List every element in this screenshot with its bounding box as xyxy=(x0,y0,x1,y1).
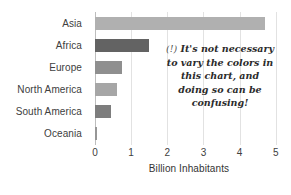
bar-asia xyxy=(95,17,265,30)
x-tick-label-1: 1 xyxy=(128,147,134,158)
category-label-africa: Africa xyxy=(0,34,88,56)
category-label-asia: Asia xyxy=(0,12,88,34)
x-tick-label-5: 5 xyxy=(273,147,279,158)
category-label-oceania: Oceania xyxy=(0,123,88,145)
annotation-line-1: It's not necessary xyxy=(181,43,275,54)
x-tick-label-0: 0 xyxy=(92,147,98,158)
bar-chart: Asia Africa Europe North America South A… xyxy=(0,0,291,195)
x-tick-label-2: 2 xyxy=(165,147,171,158)
category-label-north-america: North America xyxy=(0,79,88,101)
annotation-line-3: this chart, and xyxy=(181,70,259,81)
x-tick-label-3: 3 xyxy=(201,147,207,158)
bar-oceania xyxy=(95,127,97,140)
category-label-europe: Europe xyxy=(0,56,88,78)
category-axis-labels: Asia Africa Europe North America South A… xyxy=(0,12,88,145)
x-axis-title: Billion Inhabitants xyxy=(95,163,283,174)
bar-south-america xyxy=(95,105,111,118)
bar-europe xyxy=(95,61,122,74)
bar-row xyxy=(95,123,283,145)
category-label-south-america: South America xyxy=(0,101,88,123)
x-tick-label-4: 4 xyxy=(237,147,243,158)
x-axis-ticks: 012345 xyxy=(95,145,283,163)
bar-north-america xyxy=(95,83,117,96)
warning-icon: (!) xyxy=(166,43,177,54)
annotation-line-4: doing so can be xyxy=(178,84,261,95)
bar-row xyxy=(95,12,283,34)
bar-africa xyxy=(95,39,149,52)
annotation-line-2: to vary the colors in xyxy=(167,57,273,68)
annotation-note: (!) It's not necessary to vary the color… xyxy=(152,42,288,110)
annotation-line-5: confusing! xyxy=(192,97,249,108)
